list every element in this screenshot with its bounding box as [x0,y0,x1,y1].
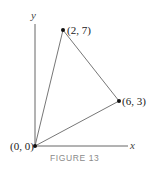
x-axis-label: x [129,139,135,151]
point-label-6-3: (6, 3) [122,95,146,108]
triangle-figure: y x (0, 0) (2, 7) (6, 3) FIGURE 13 [0,0,155,171]
coordinate-plane: y x (0, 0) (2, 7) (6, 3) [0,0,155,171]
figure-caption: FIGURE 13 [50,153,99,163]
edge-2-7-to-6-3 [63,30,119,101]
edge-origin-to-2-7 [35,30,63,146]
point-2-7 [61,28,65,32]
y-axis-label: y [30,9,36,21]
point-label-origin: (0, 0) [10,140,34,153]
point-6-3 [117,99,121,103]
edge-6-3-to-origin [35,101,119,146]
point-label-2-7: (2, 7) [67,24,91,37]
